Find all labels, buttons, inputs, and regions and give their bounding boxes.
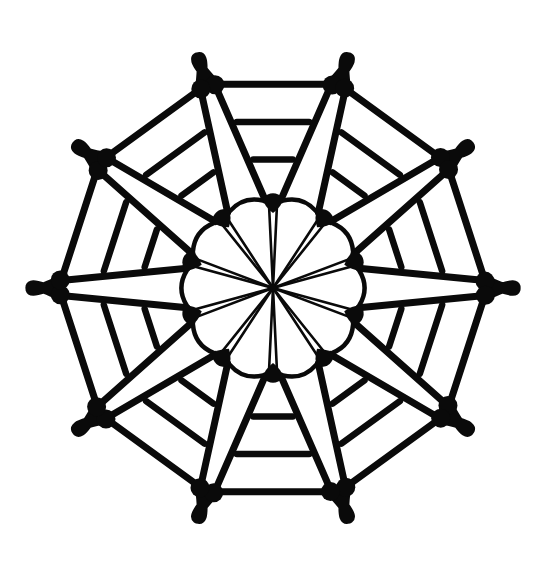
rim-chord [283,199,316,211]
outer-node [476,286,495,305]
petal-rung [146,132,204,174]
rosette-drawing [0,0,544,571]
petal-rung [146,401,204,443]
petal-rung [420,305,442,374]
petal [61,169,192,280]
petal-rung [333,380,365,403]
petal-rung [341,401,399,443]
petal-rung [341,132,399,174]
petal [215,376,332,492]
rim-chord [283,365,316,377]
outer-node [335,79,354,98]
petal-rung [182,172,214,195]
outer-node [87,397,106,416]
petal-rung [333,172,365,195]
outer-node [321,482,340,501]
petal-tip-claw [263,193,284,213]
center-hub [270,285,276,291]
rim-chord [332,223,353,251]
petal [354,169,485,280]
rim-chord [193,223,214,251]
outer-node [439,160,458,179]
rim-chord [181,270,186,305]
outer-node [431,409,450,428]
center-hub-layer [270,285,276,291]
outer-node [190,478,209,497]
outer-node [51,270,70,289]
petal [61,295,192,406]
rim-chord [230,199,263,211]
petal-rung [389,309,401,347]
outer-node [191,79,210,98]
petal-rung [420,202,442,271]
petal-rung [104,202,126,271]
petal-rung [389,230,401,268]
rim-chord [359,270,364,305]
petal-rung [182,380,214,403]
rim-chord [193,324,214,352]
petal [215,84,332,200]
artboard [0,0,544,571]
petal-rung [104,305,126,374]
petal [354,295,485,406]
outer-node [97,148,116,167]
petal-rung [145,309,157,347]
rim-chord [230,365,263,377]
petal-rung [145,230,157,268]
petal-tip-claw [263,363,284,383]
rim-chord [332,324,353,352]
